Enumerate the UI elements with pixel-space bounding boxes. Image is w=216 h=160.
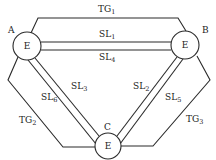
label-sl5: SL5 [165, 92, 181, 104]
label-tg3: TG3 [186, 114, 203, 126]
node-c-inner-label: E [105, 141, 112, 151]
node-a-name: A [7, 25, 15, 35]
node-b-inner-label: E [182, 40, 189, 50]
node-b[interactable]: E [171, 31, 199, 59]
node-b-name: B [202, 25, 209, 35]
network-diagram: E E E A B C TG1 SL1 SL4 SL3 SL6 TG2 SL2 … [0, 0, 216, 160]
node-a[interactable]: E [13, 32, 41, 60]
label-sl2: SL2 [133, 81, 149, 93]
label-tg2: TG2 [19, 115, 36, 127]
label-sl4: SL4 [99, 52, 115, 64]
link-tg2 [8, 57, 95, 147]
node-c-name: C [104, 122, 111, 132]
node-a-inner-label: E [24, 41, 31, 51]
link-sl6 [28, 60, 96, 144]
node-c[interactable]: E [95, 133, 121, 159]
label-tg1: TG1 [98, 4, 115, 16]
diagram-canvas: E E E A B C TG1 SL1 SL4 SL3 SL6 TG2 SL2 … [0, 0, 216, 160]
label-sl3: SL3 [71, 81, 87, 93]
label-sl1: SL1 [99, 29, 115, 41]
